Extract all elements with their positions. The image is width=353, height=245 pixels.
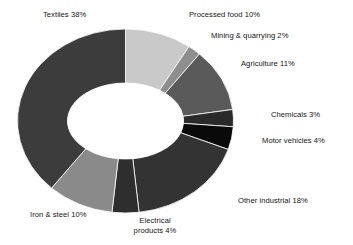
slice-label-motor-vehicles: Motor vehicles 4% (262, 136, 325, 146)
slice-label-mining-quarrying: Mining & quarrying 2% (211, 31, 288, 41)
slice-label-electrical-products: Electrical products 4% (118, 216, 192, 235)
slice-label-textiles: Textiles 38% (43, 10, 86, 20)
slice-label-other-industrial: Other industrial 18% (238, 196, 308, 206)
slice-label-iron-steel: Iron & steel 10% (30, 210, 87, 220)
slice-label-agriculture: Agriculture 11% (241, 59, 295, 69)
electrical-products-line-2: products 4% (134, 226, 177, 235)
donut-hole (68, 83, 184, 159)
donut-chart-figure: Textiles 38% Processed food 10% Mining &… (0, 0, 353, 245)
slice-label-processed-food: Processed food 10% (189, 10, 260, 20)
electrical-products-line-1: Electrical (139, 216, 170, 225)
slice-label-chemicals: Chemicals 3% (271, 110, 320, 120)
donut-chart-graphic (0, 0, 353, 245)
